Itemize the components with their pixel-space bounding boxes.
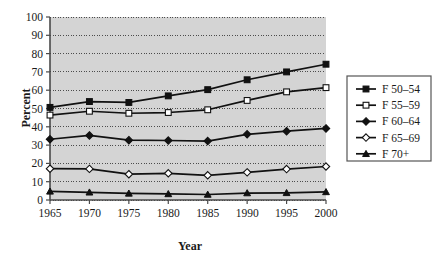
data-point-marker — [165, 93, 171, 99]
x-tick-label: 1970 — [78, 207, 101, 219]
data-point-marker — [205, 107, 211, 113]
data-point-marker — [87, 99, 93, 105]
data-point-marker — [244, 77, 250, 83]
y-tick-label: 0 — [37, 194, 43, 206]
x-axis-title: Year — [178, 239, 203, 253]
y-tick-label: 60 — [32, 84, 44, 96]
y-tick-label: 90 — [32, 29, 44, 41]
data-point-marker — [323, 61, 329, 67]
legend-label: F 70+ — [382, 148, 409, 160]
chart-figure: 0102030405060708090100 19651970197519801… — [0, 0, 443, 265]
data-point-marker — [126, 100, 132, 106]
data-point-marker — [47, 105, 53, 111]
legend-label: F 65–69 — [382, 132, 420, 144]
y-tick-label: 70 — [32, 66, 44, 78]
data-point-marker — [205, 87, 211, 93]
line-chart-svg: 0102030405060708090100 19651970197519801… — [0, 0, 443, 265]
legend-label: F 55–59 — [382, 99, 420, 111]
x-tick-label: 1975 — [117, 207, 140, 219]
x-tick-label: 1990 — [236, 207, 259, 219]
data-point-marker — [87, 108, 93, 114]
y-tick-label: 80 — [32, 48, 44, 60]
x-tick-label: 1995 — [275, 207, 298, 219]
y-tick-label: 20 — [32, 157, 44, 169]
x-tick-label: 1965 — [39, 207, 62, 219]
y-tick-label: 50 — [32, 103, 44, 115]
data-point-marker — [284, 89, 290, 95]
x-tick-label: 2000 — [315, 207, 338, 219]
y-tick-label: 30 — [32, 139, 44, 151]
x-tick-label: 1980 — [157, 207, 180, 219]
data-point-marker — [165, 110, 171, 116]
data-point-marker — [363, 86, 369, 92]
legend-label: F 60–64 — [382, 115, 420, 127]
data-point-marker — [244, 98, 250, 104]
data-point-marker — [284, 69, 290, 75]
y-tick-label: 10 — [32, 176, 44, 188]
y-tick-label: 40 — [32, 121, 44, 133]
x-tick-label: 1985 — [196, 207, 219, 219]
legend-label: F 50–54 — [382, 83, 420, 95]
data-point-marker — [126, 110, 132, 116]
y-axis-title: Percent — [19, 88, 33, 127]
data-point-marker — [47, 112, 53, 118]
data-point-marker — [363, 102, 369, 108]
x-axis-ticks: 19651970197519801985199019952000 — [39, 200, 338, 219]
data-point-marker — [323, 85, 329, 91]
y-tick-label: 100 — [26, 11, 44, 23]
